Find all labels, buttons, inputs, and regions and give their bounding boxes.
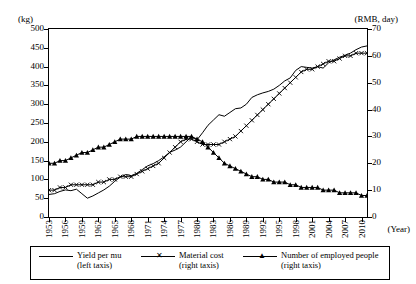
x-tick-mark <box>197 218 198 222</box>
y-tick-right: 20 <box>372 157 398 167</box>
legend-label-2-line2: (right taxis) <box>281 260 378 270</box>
series-marker-x <box>146 167 150 171</box>
series-marker-x <box>288 81 292 85</box>
legend-label-0: Yield per mu (left taxis) <box>77 250 121 270</box>
x-tick-label: 1956 <box>60 220 70 238</box>
x-tick-mark <box>329 218 330 222</box>
series-marker-triangle <box>107 142 112 147</box>
legend-label-1-line1: Material cost <box>179 250 224 260</box>
series-marker-triangle <box>227 163 232 168</box>
legend-label-2: Number of employed people (right taxis) <box>281 250 378 270</box>
y-tick-left: 350 <box>14 79 44 89</box>
x-tick-mark <box>164 218 165 222</box>
x-tick-label: 1992 <box>258 220 268 238</box>
legend-label-2-line1: Number of employed people <box>281 250 378 260</box>
series-marker-x <box>294 75 298 79</box>
series-line-1 <box>49 53 367 190</box>
series-marker-x <box>261 107 265 111</box>
series-marker-triangle <box>233 166 238 171</box>
x-tick-mark <box>213 218 214 222</box>
y-tick-mark-right <box>368 110 372 111</box>
y-tick-left: 200 <box>14 136 44 146</box>
legend-label-0-line2: (left taxis) <box>77 260 121 270</box>
series-marker-x <box>233 134 237 138</box>
x-tick-mark <box>49 218 50 222</box>
y-tick-mark-right <box>368 190 372 191</box>
y-tick-left: 150 <box>14 155 44 165</box>
x-tick-label: 1971 <box>143 220 153 238</box>
series-marker-triangle <box>244 171 249 176</box>
series-marker-x <box>250 118 254 122</box>
x-tick-label: 1953 <box>44 220 54 238</box>
series-marker-x <box>178 140 182 144</box>
y-tick-left: 50 <box>14 192 44 202</box>
x-tick-mark <box>148 218 149 222</box>
x-tick-label: 1968 <box>126 220 136 238</box>
series-marker-x <box>277 91 281 95</box>
series-marker-x <box>244 124 248 128</box>
x-tick-mark <box>345 218 346 222</box>
series-marker-x <box>157 161 161 165</box>
chart-figure: (kg) (RMB, day) (Year) 05010015020025030… <box>0 0 416 284</box>
y-tick-right: 10 <box>372 184 398 194</box>
y-tick-left: 450 <box>14 42 44 52</box>
series-marker-x <box>321 62 325 66</box>
series-marker-x <box>222 140 226 144</box>
x-tick-mark <box>312 218 313 222</box>
series-canvas <box>49 29 367 217</box>
x-tick-mark <box>131 218 132 222</box>
series-marker-x <box>272 97 276 101</box>
y-tick-left: 300 <box>14 98 44 108</box>
x-tick-label: 1995 <box>274 220 284 238</box>
x-tick-mark <box>98 218 99 222</box>
y-tick-left: 0 <box>14 211 44 221</box>
y-tick-right: 70 <box>372 23 398 33</box>
series-marker-triangle <box>200 139 205 144</box>
legend-label-1-line2: (right taxis) <box>179 260 224 270</box>
x-tick-label: 2004 <box>324 220 334 238</box>
series-marker-triangle <box>90 147 95 152</box>
x-tick-label: 1986 <box>225 220 235 238</box>
x-tick-mark <box>82 218 83 222</box>
x-tick-mark <box>181 218 182 222</box>
x-tick-mark <box>65 218 66 222</box>
x-tick-label: 1983 <box>208 220 218 238</box>
x-axis-label: (Year) <box>387 224 410 234</box>
x-tick-label: 1980 <box>192 220 202 238</box>
x-tick-label: 1965 <box>110 220 120 238</box>
x-tick-label: 2007 <box>340 220 350 238</box>
series-marker-x <box>283 86 287 90</box>
x-tick-mark <box>362 218 363 222</box>
y-tick-mark-right <box>368 136 372 137</box>
y-tick-mark-right <box>368 56 372 57</box>
series-marker-x <box>255 113 259 117</box>
y-tick-left: 250 <box>14 117 44 127</box>
legend-label-0-line1: Yield per mu <box>77 250 121 260</box>
series-marker-triangle <box>112 139 117 144</box>
series-marker-triangle <box>238 169 243 174</box>
y-tick-mark-right <box>368 83 372 84</box>
y-tick-left: 500 <box>14 23 44 33</box>
y-tick-right: 40 <box>372 104 398 114</box>
plot-area <box>48 28 368 218</box>
x-tick-label: 1998 <box>291 220 301 238</box>
y-tick-right: 0 <box>372 211 398 221</box>
series-marker-triangle <box>74 153 79 158</box>
chart-legend: Yield per mu (left taxis) ✕ Material cos… <box>30 246 390 280</box>
x-tick-label: 1959 <box>77 220 87 238</box>
x-tick-label: 1962 <box>93 220 103 238</box>
x-tick-label: 1974 <box>159 220 169 238</box>
x-tick-mark <box>279 218 280 222</box>
y-tick-right: 30 <box>372 130 398 140</box>
x-tick-label: 1989 <box>241 220 251 238</box>
legend-marker-0 <box>39 256 73 257</box>
y-tick-mark-right <box>368 217 372 218</box>
x-tick-mark <box>263 218 264 222</box>
x-tick-label: 1977 <box>176 220 186 238</box>
series-marker-x <box>151 164 155 168</box>
legend-marker-1: ✕ <box>141 256 175 257</box>
series-marker-x <box>173 145 177 149</box>
y-tick-right: 60 <box>372 50 398 60</box>
y-tick-right: 50 <box>372 77 398 87</box>
x-tick-mark <box>230 218 231 222</box>
